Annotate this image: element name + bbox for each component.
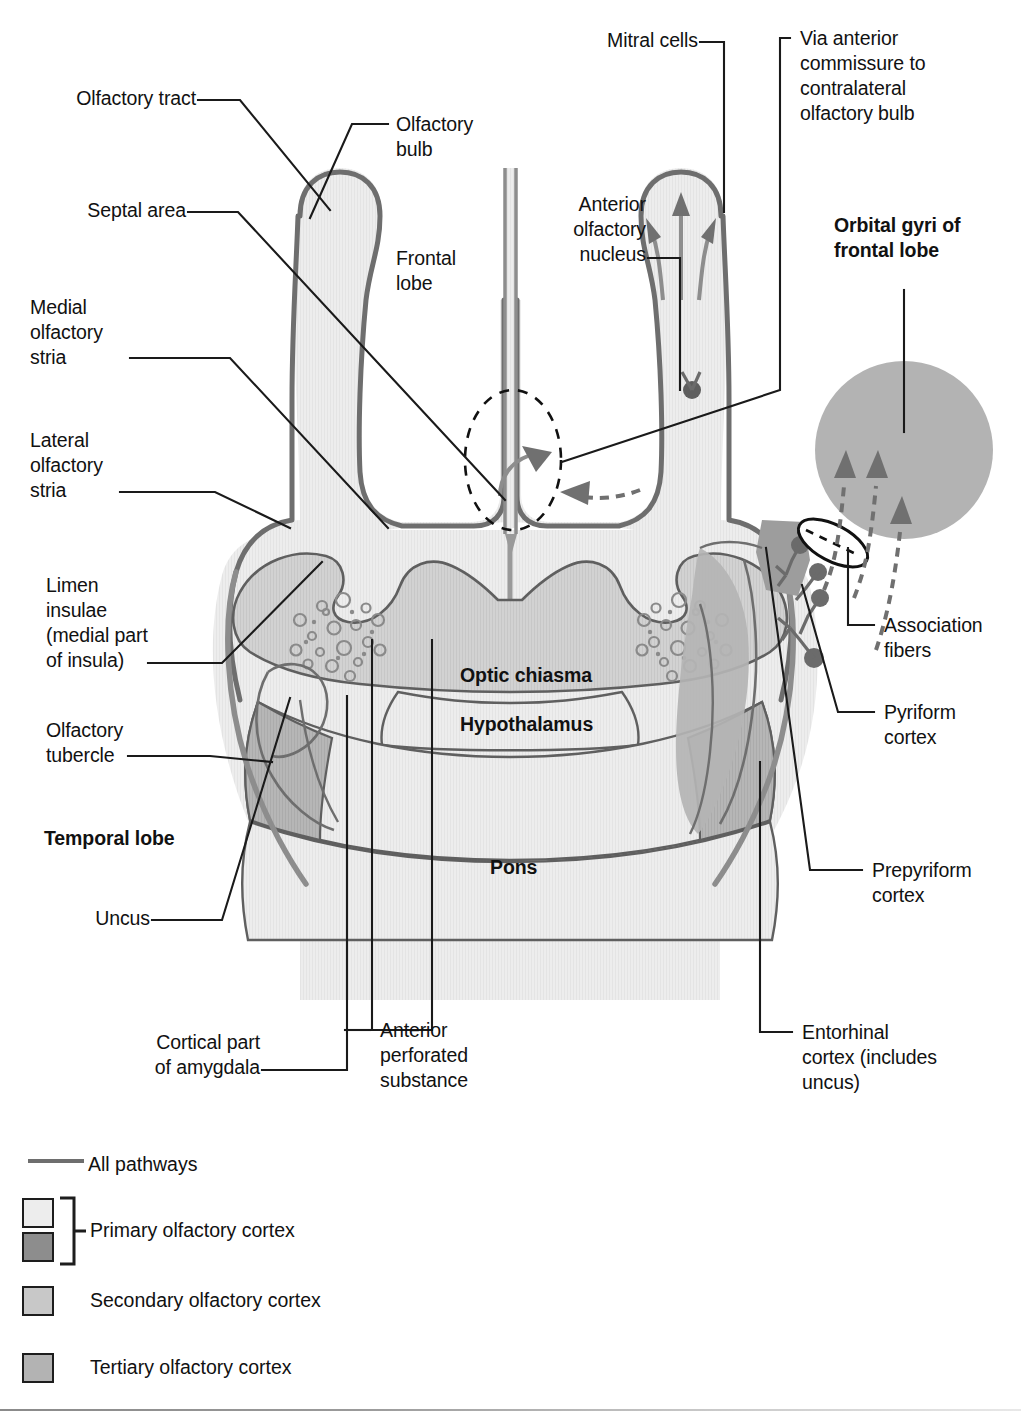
legend-line-all-pathways — [28, 1155, 84, 1167]
label-olfactory-bulb: Olfactory bulb — [396, 112, 516, 162]
legend-swatch-primary-dark — [22, 1232, 54, 1262]
label-limen-insulae: Limen insulae (medial part of insula) — [46, 573, 196, 673]
label-hypothalamus: Hypothalamus — [460, 712, 680, 737]
legend-label-tertiary-olfactory-cortex: Tertiary olfactory cortex — [90, 1355, 292, 1380]
label-temporal-lobe: Temporal lobe — [44, 826, 244, 851]
legend-swatch-secondary — [22, 1286, 54, 1316]
label-medial-olfactory-stria: Medial olfactory stria — [30, 295, 160, 370]
legend-bracket-primary — [58, 1194, 88, 1268]
label-orbital-gyri-of-frontal-lobe: Orbital gyri of frontal lobe — [834, 213, 1014, 263]
label-mitral-cells: Mitral cells — [470, 28, 698, 53]
label-optic-chiasma: Optic chiasma — [460, 663, 680, 688]
label-olfactory-tubercle: Olfactory tubercle — [46, 718, 186, 768]
label-cortical-part-of-amygdala: Cortical part of amygdala — [70, 1030, 260, 1080]
legend-label-all-pathways: All pathways — [88, 1152, 197, 1177]
label-via-anterior-commissure: Via anterior commissure to contralateral… — [800, 26, 1010, 126]
label-prepyriform-cortex: Prepyriform cortex — [872, 858, 1021, 908]
label-uncus: Uncus — [0, 906, 150, 931]
label-entorhinal-cortex: Entorhinal cortex (includes uncus) — [802, 1020, 1002, 1095]
legend-label-primary-olfactory-cortex: Primary olfactory cortex — [90, 1218, 295, 1243]
label-pyriform-cortex: Pyriform cortex — [884, 700, 1014, 750]
label-anterior-olfactory-nucleus: Anterior olfactory nucleus — [490, 192, 646, 267]
figure-canvas: Olfactory tract Septal area Medial olfac… — [0, 0, 1021, 1420]
page-bottom-rule — [0, 1409, 1021, 1411]
legend-label-secondary-olfactory-cortex: Secondary olfactory cortex — [90, 1288, 321, 1313]
legend-swatch-tertiary — [22, 1353, 54, 1383]
label-lateral-olfactory-stria: Lateral olfactory stria — [30, 428, 160, 503]
label-association-fibers: Association fibers — [884, 613, 1021, 663]
label-anterior-perforated-substance: Anterior perforated substance — [380, 1018, 550, 1093]
legend-swatch-primary-light — [22, 1198, 54, 1228]
label-septal-area: Septal area — [0, 198, 186, 223]
label-olfactory-tract: Olfactory tract — [0, 86, 196, 111]
label-pons: Pons — [490, 855, 610, 880]
